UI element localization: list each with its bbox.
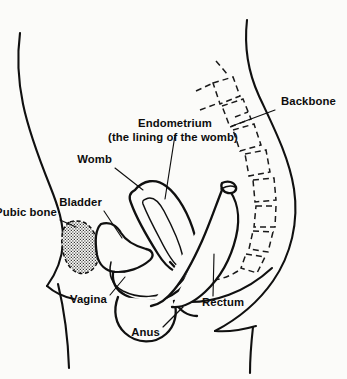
label-pubic-bone: Pubic bone xyxy=(0,206,57,218)
vertebra-6 xyxy=(254,206,276,227)
spinous-process-upper-4 xyxy=(235,112,248,117)
label-vagina: Vagina xyxy=(70,293,108,305)
anatomical-diagram: Backbone Endometrium (the lining of the … xyxy=(0,0,347,379)
label-rectum: Rectum xyxy=(202,296,244,308)
back-body-outline xyxy=(215,20,295,331)
pubic-bone-group xyxy=(62,221,99,274)
pelvis-cross-section-illustration: Backbone Endometrium (the lining of the … xyxy=(0,0,347,379)
spinous-process-upper-3 xyxy=(216,61,228,75)
vertebra-4 xyxy=(245,150,270,176)
label-anus: Anus xyxy=(131,326,160,338)
pubic-bone-shape xyxy=(62,221,99,274)
vertebra-8-coccyx xyxy=(241,254,265,273)
label-womb: Womb xyxy=(77,153,112,165)
spinous-process-upper-2 xyxy=(200,104,216,110)
leader-womb xyxy=(115,168,143,190)
label-backbone: Backbone xyxy=(281,95,336,107)
vertebra-1 xyxy=(213,77,240,104)
label-endometrium-line2: (the lining of the womb) xyxy=(108,131,238,143)
spinous-process-upper-1 xyxy=(196,84,211,91)
label-bladder: Bladder xyxy=(59,196,102,208)
front-body-outline xyxy=(18,33,63,286)
label-endometrium-line1: Endometrium xyxy=(138,117,212,129)
vertebra-5 xyxy=(253,178,276,202)
vertebra-7-sacrum xyxy=(249,231,273,252)
back-thigh-line xyxy=(250,327,253,373)
